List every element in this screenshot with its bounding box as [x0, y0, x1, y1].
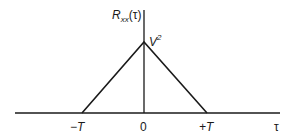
x-tick-zero: 0 — [140, 120, 147, 134]
x-axis-label: τ — [274, 120, 279, 134]
x-tick-plus-t: +T — [199, 120, 215, 134]
peak-label: V2 — [149, 33, 162, 49]
x-tick-minus-t: −T — [70, 120, 86, 134]
autocorrelation-chart: Rxx(τ) V2 −T 0 +T τ — [0, 0, 292, 139]
y-axis-label: Rxx(τ) — [112, 8, 141, 24]
